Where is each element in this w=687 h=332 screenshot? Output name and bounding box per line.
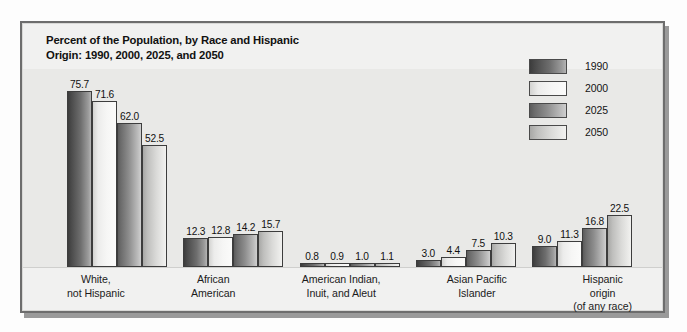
bar[interactable]	[92, 101, 117, 268]
bar[interactable]	[183, 238, 208, 267]
category-label-line: not Hispanic	[67, 287, 125, 301]
category-label-line: American	[191, 287, 235, 301]
chart-title: Percent of the Population, by Race and H…	[46, 33, 466, 62]
category-label: Hispanicorigin(of any race)	[573, 273, 632, 314]
category-label-line: Islander	[447, 287, 507, 301]
bar-column[interactable]: 3.0	[416, 69, 441, 267]
bar-value-label: 14.2	[236, 222, 255, 233]
category-label: Asian PacificIslander	[447, 273, 507, 300]
bar-value-label: 7.5	[471, 238, 485, 249]
bar-column[interactable]: 12.3	[183, 69, 208, 267]
bar-column[interactable]: 16.8	[582, 69, 607, 267]
bar-column[interactable]: 71.6	[92, 69, 117, 267]
bar-column[interactable]: 7.5	[466, 69, 491, 267]
bar-value-label: 1.0	[355, 251, 369, 262]
bar[interactable]	[582, 228, 607, 267]
bar-value-label: 1.1	[380, 251, 394, 262]
bar-group: 75.771.662.052.5	[67, 69, 167, 267]
bar-value-label: 0.9	[330, 251, 344, 262]
bar-column[interactable]: 0.9	[325, 69, 350, 267]
bar-value-label: 71.6	[95, 89, 114, 100]
bar-value-label: 75.7	[70, 79, 89, 90]
category-axis-labels: White,not HispanicAfricanAmericanAmerica…	[23, 273, 662, 317]
bar[interactable]	[208, 237, 233, 267]
bar[interactable]	[233, 234, 258, 267]
bar-value-label: 3.0	[421, 248, 435, 259]
bar-column[interactable]: 15.7	[258, 69, 283, 267]
bar-column[interactable]: 12.8	[208, 69, 233, 267]
bar-group: 12.312.814.215.7	[183, 69, 283, 267]
bar[interactable]	[300, 263, 325, 267]
bar-column[interactable]: 10.3	[491, 69, 516, 267]
bar[interactable]	[350, 263, 375, 267]
bar[interactable]	[557, 241, 582, 267]
bar-column[interactable]: 1.1	[375, 69, 400, 267]
scan-page: Percent of the Population, by Race and H…	[0, 0, 687, 332]
category-label-line: Asian Pacific	[447, 273, 507, 287]
bar[interactable]	[441, 257, 466, 267]
bar-column[interactable]: 0.8	[300, 69, 325, 267]
bar-column[interactable]: 14.2	[233, 69, 258, 267]
bar[interactable]	[258, 231, 283, 268]
category-label-line: American Indian,	[302, 273, 381, 287]
bar-value-label: 22.5	[610, 203, 629, 214]
bar-value-label: 12.3	[186, 226, 205, 237]
category-label-line: (of any race)	[573, 300, 632, 314]
bar[interactable]	[416, 260, 441, 267]
bar-column[interactable]: 22.5	[607, 69, 632, 267]
category-label: AfricanAmerican	[191, 273, 235, 300]
bar[interactable]	[532, 246, 557, 267]
category-label-line: African	[191, 273, 235, 287]
bar-group: 9.011.316.822.5	[532, 69, 632, 267]
bar[interactable]	[142, 145, 167, 267]
bar-value-label: 10.3	[494, 231, 513, 242]
chart-figure: Percent of the Population, by Race and H…	[20, 21, 665, 313]
bar-groups: 75.771.662.052.512.312.814.215.70.80.91.…	[23, 69, 662, 267]
bar-value-label: 62.0	[120, 111, 139, 122]
bar-value-label: 52.5	[145, 133, 164, 144]
bar-column[interactable]: 62.0	[117, 69, 142, 267]
chart-title-line-2: Origin: 1990, 2000, 2025, and 2050	[46, 48, 466, 63]
bar[interactable]	[607, 215, 632, 267]
category-label-line: White,	[67, 273, 125, 287]
bar-value-label: 4.4	[446, 245, 460, 256]
bar-column[interactable]: 11.3	[557, 69, 582, 267]
bar[interactable]	[117, 123, 142, 267]
bar[interactable]	[375, 263, 400, 267]
bar-group: 0.80.91.01.1	[300, 69, 400, 267]
bar-value-label: 0.8	[305, 251, 319, 262]
bar-column[interactable]: 1.0	[350, 69, 375, 267]
category-label-line: origin	[573, 287, 632, 301]
bar[interactable]	[491, 243, 516, 267]
bar[interactable]	[325, 263, 350, 267]
bar-value-label: 11.3	[560, 229, 578, 240]
category-label-line: Hispanic	[573, 273, 632, 287]
bar-column[interactable]: 52.5	[142, 69, 167, 267]
bar-value-label: 16.8	[585, 216, 604, 227]
category-label: American Indian,Inuit, and Aleut	[302, 273, 381, 300]
bar[interactable]	[67, 91, 92, 267]
chart-title-line-1: Percent of the Population, by Race and H…	[46, 33, 466, 48]
bar-value-label: 15.7	[261, 219, 280, 230]
bar[interactable]	[466, 250, 491, 267]
plot-baseline	[23, 267, 662, 268]
bar-column[interactable]: 75.7	[67, 69, 92, 267]
bar-value-label: 9.0	[538, 234, 552, 245]
bar-column[interactable]: 9.0	[532, 69, 557, 267]
category-label: White,not Hispanic	[67, 273, 125, 300]
bar-column[interactable]: 4.4	[441, 69, 466, 267]
category-label-line: Inuit, and Aleut	[302, 287, 381, 301]
bar-value-label: 12.8	[211, 225, 230, 236]
bar-group: 3.04.47.510.3	[416, 69, 516, 267]
